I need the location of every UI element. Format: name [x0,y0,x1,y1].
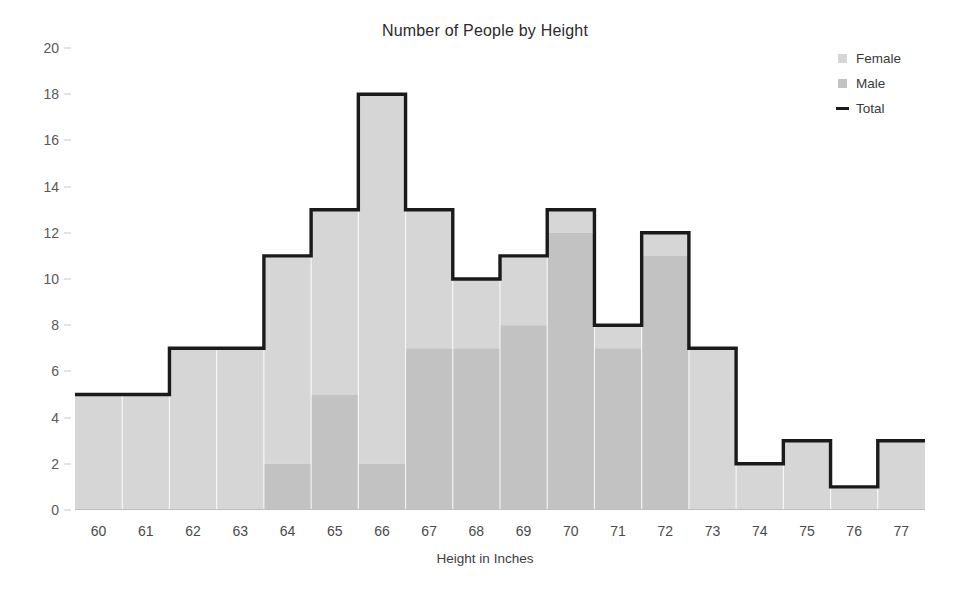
legend-item-female[interactable]: Female [838,46,970,71]
histogram-svg [75,48,925,510]
chart-container: Number of People by Height 0246810121416… [0,0,970,596]
x-tick-label: 71 [610,523,626,539]
bar-segment-female [122,395,169,511]
bar-segment-male [311,395,358,511]
chart-title: Number of People by Height [0,22,970,40]
bar-segment-male [547,233,594,510]
y-tick-mark [64,94,71,95]
bar-segment-female [406,210,453,349]
bar-segment-female [500,256,547,325]
legend-line-icon [836,107,849,110]
x-tick-label: 66 [374,523,390,539]
y-tick-label: 18 [43,86,59,102]
y-tick-label: 10 [43,271,59,287]
x-tick-label: 63 [232,523,248,539]
legend-swatch-icon [838,54,847,63]
bar-segment-female [453,279,500,348]
legend-item-total[interactable]: Total [838,96,970,121]
y-tick-label: 0 [51,502,59,518]
bar-segment-male [358,464,405,510]
chart-legend: FemaleMaleTotal [838,46,970,121]
bar-segment-female [783,441,830,510]
x-tick-label: 67 [421,523,437,539]
bar-segment-female [642,233,689,256]
bar-segment-female [736,464,783,510]
y-axis: 02468101214161820 [0,48,75,510]
y-tick-label: 14 [43,179,59,195]
x-tick-label: 62 [185,523,201,539]
y-tick-mark [64,510,71,511]
y-tick-label: 8 [51,317,59,333]
y-tick-mark [64,371,71,372]
x-tick-label: 70 [563,523,579,539]
bar-segment-female [169,348,216,510]
x-tick-label: 61 [138,523,154,539]
bar-segment-male [594,348,641,510]
bar-segment-female [311,210,358,395]
legend-swatch-icon [838,79,847,88]
bar-segment-male [500,325,547,510]
x-tick-label: 76 [846,523,862,539]
bar-segment-male [406,348,453,510]
bar-segment-female [831,487,878,510]
legend-item-label: Female [856,51,901,66]
y-tick-mark [64,417,71,418]
x-axis: 606162636465666768697071727374757677 [75,510,925,550]
x-tick-label: 77 [894,523,910,539]
bar-segment-male [264,464,311,510]
bar-segment-female [217,348,264,510]
legend-item-male[interactable]: Male [838,71,970,96]
x-axis-title: Height in Inches [0,551,970,566]
y-tick-mark [64,48,71,49]
bar-segment-female [689,348,736,510]
y-tick-mark [64,279,71,280]
bar-segment-female [264,256,311,464]
y-tick-mark [64,186,71,187]
y-tick-label: 20 [43,40,59,56]
bar-segment-female [75,395,122,511]
legend-item-label: Total [856,101,885,116]
bar-segment-female [594,325,641,348]
y-tick-label: 2 [51,456,59,472]
bar-segment-female [547,210,594,233]
y-tick-label: 6 [51,363,59,379]
x-tick-label: 75 [799,523,815,539]
x-tick-label: 64 [280,523,296,539]
x-tick-label: 72 [657,523,673,539]
y-tick-mark [64,463,71,464]
bar-segment-male [642,256,689,510]
y-tick-mark [64,140,71,141]
y-tick-label: 12 [43,225,59,241]
legend-item-label: Male [856,76,885,91]
x-tick-label: 60 [91,523,107,539]
bar-segment-male [453,348,500,510]
x-tick-label: 65 [327,523,343,539]
x-tick-label: 73 [705,523,721,539]
y-tick-mark [64,232,71,233]
bar-segment-female [358,94,405,464]
plot-area [75,48,925,510]
y-tick-label: 4 [51,410,59,426]
x-tick-label: 74 [752,523,768,539]
x-tick-label: 68 [469,523,485,539]
y-tick-label: 16 [43,132,59,148]
bar-segment-female [878,441,925,510]
x-tick-label: 69 [516,523,532,539]
y-tick-mark [64,325,71,326]
